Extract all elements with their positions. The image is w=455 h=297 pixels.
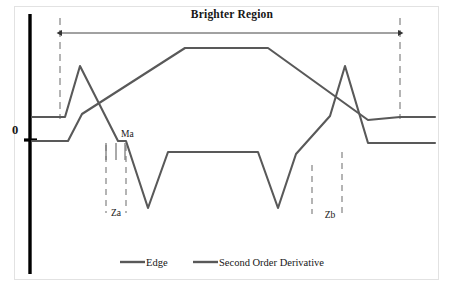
axis-zero-label: 0 bbox=[12, 123, 18, 137]
legend-label-edge: Edge bbox=[146, 257, 168, 268]
second-order-derivative-curve bbox=[32, 48, 435, 141]
za-label: Za bbox=[111, 208, 122, 218]
signal-plot-svg: 0 Brighter Region Ma Za Zb Edge Second O… bbox=[0, 0, 455, 297]
legend-label-second-order-derivative: Second Order Derivative bbox=[219, 257, 324, 268]
page-title: Brighter Region bbox=[191, 8, 274, 21]
ma-label: Ma bbox=[121, 129, 134, 139]
zb-label: Zb bbox=[325, 210, 336, 220]
edge-curve bbox=[32, 66, 435, 208]
